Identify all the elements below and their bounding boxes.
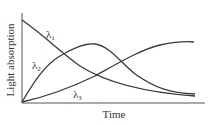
- series-lambda3-label: λ3: [73, 88, 82, 102]
- chart: λ1 λ2 λ3 Time Light absorption: [0, 0, 212, 125]
- y-axis-label: Light absorption: [4, 23, 16, 97]
- x-axis-label: Time: [103, 108, 126, 120]
- series-lambda2-label: λ2: [32, 59, 41, 73]
- series-lambda1-label: λ1: [46, 28, 55, 42]
